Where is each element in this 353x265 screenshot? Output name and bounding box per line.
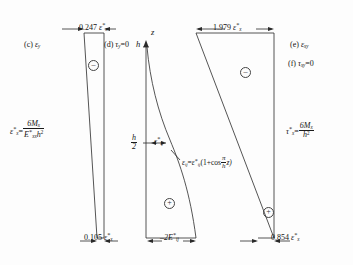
left-top-value-number: 0.247 xyxy=(79,23,97,32)
middle-top-value-number: 1.979 xyxy=(213,23,231,32)
caption-f: (f) τxy=0 xyxy=(288,60,314,68)
right-formula-num-subscript: x xyxy=(311,125,313,130)
caption-f-index: (f) xyxy=(288,59,296,68)
middle-z-axis-arrowhead xyxy=(143,40,148,47)
middle-bottom-arrow-right xyxy=(190,239,196,243)
right-bottom-value: 0.854 ε*x xyxy=(271,232,300,242)
right-sign-marker-negative: – xyxy=(240,67,251,78)
right-formula-numerator: 6Mx xyxy=(299,122,314,130)
caption-d: (d) τy=0 xyxy=(104,41,129,49)
left-formula-fraction: 6MxE*xxh2 xyxy=(23,120,44,139)
caption-f-value: =0 xyxy=(305,59,314,68)
middle-h-half-denominator: 2 xyxy=(131,142,137,151)
caption-c-index: (c) xyxy=(24,40,33,49)
curve-eq-tail-close: z) xyxy=(226,158,231,167)
right-bottom-value-number: 0.854 xyxy=(271,233,289,242)
middle-curve-equation: εij=ε*ij(1+cosπhz) xyxy=(182,155,232,170)
caption-c: (c) εy xyxy=(24,41,40,49)
caption-c-subscript: y xyxy=(38,44,40,49)
left-formula-num-subscript: x xyxy=(38,123,40,128)
left-formula-numerator: 6Mx xyxy=(23,120,44,128)
middle-mid-label: ε*ij xyxy=(154,136,163,146)
middle-h-half-numerator: h xyxy=(131,134,137,142)
middle-top-value-subscript: x xyxy=(239,27,241,32)
right-sign-marker-bottom-glyph: + xyxy=(266,207,271,216)
left-formula-num-text: 6M xyxy=(27,119,38,128)
middle-axis-z-label: z xyxy=(151,28,154,37)
middle-bottom-value: –2E*ij xyxy=(160,232,179,242)
middle-sign-marker-glyph: + xyxy=(167,198,172,207)
left-formula-denominator: E*xxh2 xyxy=(23,128,44,139)
left-bottom-value-subscript: x xyxy=(110,237,112,242)
caption-e: (e) εxy xyxy=(290,41,309,49)
right-formula-fraction: 6Mxh2 xyxy=(299,122,314,140)
right-top-arrow-left xyxy=(196,27,202,31)
left-formula-den-h-exponent: 2 xyxy=(41,131,44,136)
left-bottom-value-number: 0.105 xyxy=(84,233,102,242)
middle-bottom-value-text: 2E xyxy=(164,233,173,242)
middle-h-half-fraction: h2 xyxy=(131,134,137,151)
right-formula-num-text: 6M xyxy=(300,121,311,130)
middle-bottom-arrow-left xyxy=(147,239,153,243)
right-formula-denominator: h2 xyxy=(299,130,314,139)
caption-e-subscript: xy xyxy=(304,44,308,49)
right-formula: τ*x=6Mxh2 xyxy=(286,122,314,140)
middle-sign-marker-positive: + xyxy=(164,198,175,209)
middle-mid-label-subscript: ij xyxy=(160,141,163,146)
middle-bottom-value-subscript: ij xyxy=(176,237,179,242)
left-formula: ε*x=6MxE*xxh2 xyxy=(10,120,44,139)
right-bottom-arrow-right xyxy=(252,239,258,243)
left-top-value-subscript: x xyxy=(105,27,107,32)
right-top-arrow-right xyxy=(268,27,274,31)
right-sign-marker-positive: + xyxy=(263,207,274,218)
middle-top-value: 1.979 ε*x xyxy=(213,22,242,32)
left-sign-marker-glyph: – xyxy=(92,60,96,69)
right-bottom-value-subscript: x xyxy=(297,237,299,242)
middle-axis-h-label: h xyxy=(136,40,140,49)
middle-equation-leader xyxy=(171,150,180,160)
caption-d-index: (d) xyxy=(104,40,113,49)
right-diagonal-edge xyxy=(196,33,274,238)
right-formula-den-h-exponent: 2 xyxy=(307,131,310,136)
caption-d-value: =0 xyxy=(120,40,129,49)
left-top-value: 0.247 ε*x xyxy=(79,22,108,32)
left-bottom-value: 0.105 ε*x xyxy=(84,232,113,242)
middle-axis-h-half-label: h2 xyxy=(131,134,137,151)
caption-e-index: (e) xyxy=(290,40,299,49)
left-sign-marker-negative: – xyxy=(88,60,99,71)
curve-eq-tail-open: (1+cos xyxy=(200,158,220,167)
right-sign-marker-top-glyph: – xyxy=(244,67,248,76)
figure-canvas: (c) εy (d) τy=0 0.247 ε*x 0.105 ε*x ε*x=… xyxy=(0,0,353,265)
